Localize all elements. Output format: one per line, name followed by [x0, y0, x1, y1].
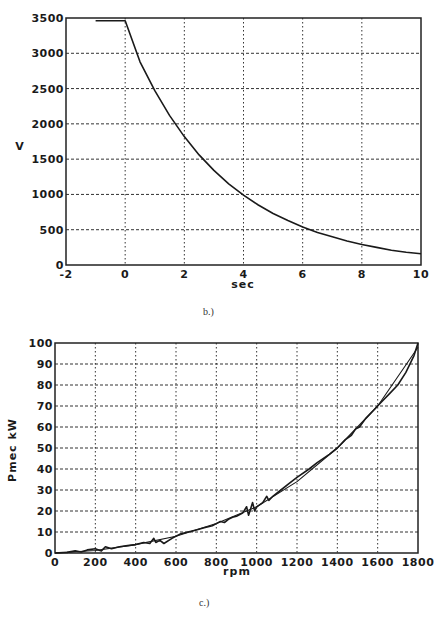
x-tick-label: 400	[123, 556, 147, 569]
chart-b: -202468100500100015002000250030003500sec…	[15, 12, 429, 291]
y-tick-label: 30	[37, 484, 53, 497]
x-tick-label: 1200	[281, 556, 314, 569]
x-tick-label: 1800	[402, 556, 435, 569]
grid	[66, 18, 421, 265]
figure-canvas: -202468100500100015002000250030003500sec…	[0, 0, 441, 618]
series-line-V	[96, 21, 421, 254]
x-axis-label: rpm	[223, 565, 251, 578]
x-tick-label: 600	[164, 556, 188, 569]
series-line-model	[55, 347, 418, 553]
x-tick-label: 10	[413, 268, 429, 281]
x-tick-label: 0	[121, 268, 129, 281]
y-tick-label: 3500	[31, 12, 64, 25]
y-tick-label: 70	[37, 400, 53, 413]
y-tick-label: 100	[29, 337, 53, 350]
y-tick-label: 40	[37, 463, 53, 476]
y-tick-label: 3000	[31, 47, 64, 60]
y-tick-label: 2500	[31, 83, 64, 96]
x-tick-label: 1600	[361, 556, 394, 569]
x-tick-label: 8	[358, 268, 366, 281]
x-tick-label: 1400	[321, 556, 354, 569]
y-axis-label: V	[15, 140, 25, 153]
y-tick-labels: 0500100015002000250030003500	[31, 12, 64, 272]
y-tick-labels: 0102030405060708090100	[29, 337, 53, 560]
y-tick-label: 500	[40, 224, 64, 237]
y-tick-label: 90	[37, 358, 53, 371]
y-tick-label: 10	[37, 526, 53, 539]
x-tick-label: 200	[83, 556, 107, 569]
x-axis-label: sec	[231, 278, 255, 291]
y-tick-label: 20	[37, 505, 53, 518]
y-tick-label: 1500	[31, 153, 64, 166]
grid	[55, 343, 418, 553]
y-tick-label: 0	[45, 547, 53, 560]
y-tick-label: 2000	[31, 118, 64, 131]
y-axis-label: Pmec kW	[6, 418, 19, 482]
y-tick-label: 80	[37, 379, 53, 392]
y-tick-label: 0	[56, 259, 64, 272]
chart-c: 0200400600800100012001400160018000102030…	[6, 337, 434, 578]
x-tick-label: 6	[299, 268, 307, 281]
y-tick-label: 60	[37, 421, 53, 434]
caption-c: c.)	[199, 597, 209, 608]
y-tick-label: 1000	[31, 188, 64, 201]
caption-b: b.)	[203, 306, 214, 317]
y-tick-label: 50	[37, 442, 53, 455]
x-tick-label: 2	[180, 268, 188, 281]
